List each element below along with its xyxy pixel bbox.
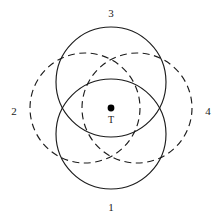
circle-label-1: 1 [108, 201, 114, 213]
four-circles-diagram: T 3 1 2 4 [0, 0, 222, 224]
circle-label-3: 3 [108, 7, 114, 19]
circle-4-right-dashed [82, 53, 192, 163]
figure-canvas: T 3 1 2 4 [0, 0, 222, 224]
circle-2-left-dashed [30, 53, 140, 163]
circle-label-2: 2 [11, 105, 17, 117]
center-point-dot [108, 105, 115, 112]
circle-label-4: 4 [205, 105, 211, 117]
circle-1-bottom-solid [56, 79, 166, 189]
center-point-label: T [108, 114, 114, 125]
